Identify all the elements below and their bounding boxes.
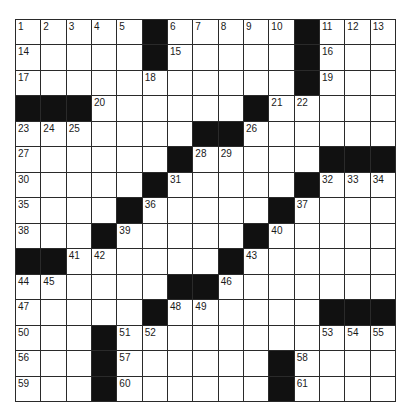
grid-cell[interactable] xyxy=(269,45,293,69)
grid-cell[interactable] xyxy=(244,377,268,401)
grid-cell[interactable] xyxy=(67,198,91,222)
grid-cell[interactable]: 19 xyxy=(320,71,344,95)
grid-cell[interactable] xyxy=(320,351,344,375)
grid-cell[interactable]: 57 xyxy=(117,351,141,375)
grid-cell[interactable] xyxy=(345,71,369,95)
grid-cell[interactable]: 25 xyxy=(67,122,91,146)
grid-cell[interactable]: 54 xyxy=(345,326,369,350)
grid-cell[interactable] xyxy=(244,71,268,95)
grid-cell[interactable] xyxy=(219,198,243,222)
grid-cell[interactable] xyxy=(41,147,65,171)
grid-cell[interactable] xyxy=(345,198,369,222)
grid-cell[interactable]: 9 xyxy=(244,20,268,44)
grid-cell[interactable] xyxy=(67,275,91,299)
grid-cell[interactable] xyxy=(168,71,192,95)
grid-cell[interactable] xyxy=(92,198,116,222)
grid-cell[interactable] xyxy=(371,122,395,146)
grid-cell[interactable] xyxy=(193,224,217,248)
grid-cell[interactable] xyxy=(193,198,217,222)
grid-cell[interactable]: 31 xyxy=(168,173,192,197)
grid-cell[interactable]: 51 xyxy=(117,326,141,350)
grid-cell[interactable]: 18 xyxy=(143,71,167,95)
grid-cell[interactable] xyxy=(371,198,395,222)
grid-cell[interactable] xyxy=(219,173,243,197)
grid-cell[interactable] xyxy=(219,224,243,248)
grid-cell[interactable] xyxy=(269,275,293,299)
grid-cell[interactable] xyxy=(41,71,65,95)
grid-cell[interactable] xyxy=(117,96,141,120)
grid-cell[interactable] xyxy=(244,326,268,350)
grid-cell[interactable]: 49 xyxy=(193,300,217,324)
grid-cell[interactable]: 23 xyxy=(16,122,40,146)
grid-cell[interactable]: 61 xyxy=(295,377,319,401)
grid-cell[interactable]: 43 xyxy=(244,249,268,273)
grid-cell[interactable] xyxy=(117,45,141,69)
grid-cell[interactable] xyxy=(371,249,395,273)
grid-cell[interactable] xyxy=(168,326,192,350)
grid-cell[interactable]: 56 xyxy=(16,351,40,375)
grid-cell[interactable]: 3 xyxy=(67,20,91,44)
grid-cell[interactable] xyxy=(143,377,167,401)
grid-cell[interactable] xyxy=(168,377,192,401)
grid-cell[interactable] xyxy=(143,275,167,299)
grid-cell[interactable]: 29 xyxy=(219,147,243,171)
grid-cell[interactable]: 59 xyxy=(16,377,40,401)
grid-cell[interactable] xyxy=(92,147,116,171)
grid-cell[interactable] xyxy=(345,224,369,248)
grid-cell[interactable] xyxy=(269,249,293,273)
grid-cell[interactable] xyxy=(219,300,243,324)
grid-cell[interactable] xyxy=(117,71,141,95)
grid-cell[interactable] xyxy=(371,45,395,69)
grid-cell[interactable] xyxy=(168,224,192,248)
grid-cell[interactable]: 28 xyxy=(193,147,217,171)
grid-cell[interactable] xyxy=(168,198,192,222)
grid-cell[interactable] xyxy=(41,224,65,248)
grid-cell[interactable] xyxy=(117,122,141,146)
grid-cell[interactable]: 12 xyxy=(345,20,369,44)
grid-cell[interactable] xyxy=(320,275,344,299)
grid-cell[interactable]: 4 xyxy=(92,20,116,44)
grid-cell[interactable]: 39 xyxy=(117,224,141,248)
grid-cell[interactable]: 40 xyxy=(269,224,293,248)
grid-cell[interactable]: 5 xyxy=(117,20,141,44)
grid-cell[interactable]: 2 xyxy=(41,20,65,44)
grid-cell[interactable] xyxy=(295,249,319,273)
grid-cell[interactable]: 38 xyxy=(16,224,40,248)
grid-cell[interactable] xyxy=(92,173,116,197)
grid-cell[interactable]: 50 xyxy=(16,326,40,350)
grid-cell[interactable]: 37 xyxy=(295,198,319,222)
grid-cell[interactable]: 30 xyxy=(16,173,40,197)
grid-cell[interactable]: 27 xyxy=(16,147,40,171)
grid-cell[interactable]: 33 xyxy=(345,173,369,197)
grid-cell[interactable]: 15 xyxy=(168,45,192,69)
grid-cell[interactable] xyxy=(345,249,369,273)
grid-cell[interactable]: 22 xyxy=(295,96,319,120)
grid-cell[interactable] xyxy=(168,249,192,273)
grid-cell[interactable] xyxy=(67,351,91,375)
grid-cell[interactable] xyxy=(295,326,319,350)
grid-cell[interactable]: 42 xyxy=(92,249,116,273)
grid-cell[interactable]: 35 xyxy=(16,198,40,222)
grid-cell[interactable] xyxy=(67,326,91,350)
grid-cell[interactable] xyxy=(193,71,217,95)
grid-cell[interactable] xyxy=(41,351,65,375)
grid-cell[interactable] xyxy=(345,45,369,69)
grid-cell[interactable] xyxy=(193,96,217,120)
grid-cell[interactable] xyxy=(244,173,268,197)
grid-cell[interactable] xyxy=(168,122,192,146)
grid-cell[interactable] xyxy=(117,300,141,324)
grid-cell[interactable] xyxy=(269,71,293,95)
grid-cell[interactable] xyxy=(67,173,91,197)
grid-cell[interactable]: 55 xyxy=(371,326,395,350)
grid-cell[interactable]: 44 xyxy=(16,275,40,299)
grid-cell[interactable] xyxy=(219,71,243,95)
grid-cell[interactable] xyxy=(295,275,319,299)
grid-cell[interactable] xyxy=(67,71,91,95)
grid-cell[interactable] xyxy=(219,377,243,401)
grid-cell[interactable] xyxy=(67,377,91,401)
grid-cell[interactable] xyxy=(117,275,141,299)
grid-cell[interactable] xyxy=(143,147,167,171)
grid-cell[interactable] xyxy=(295,122,319,146)
grid-cell[interactable] xyxy=(92,71,116,95)
grid-cell[interactable] xyxy=(193,377,217,401)
